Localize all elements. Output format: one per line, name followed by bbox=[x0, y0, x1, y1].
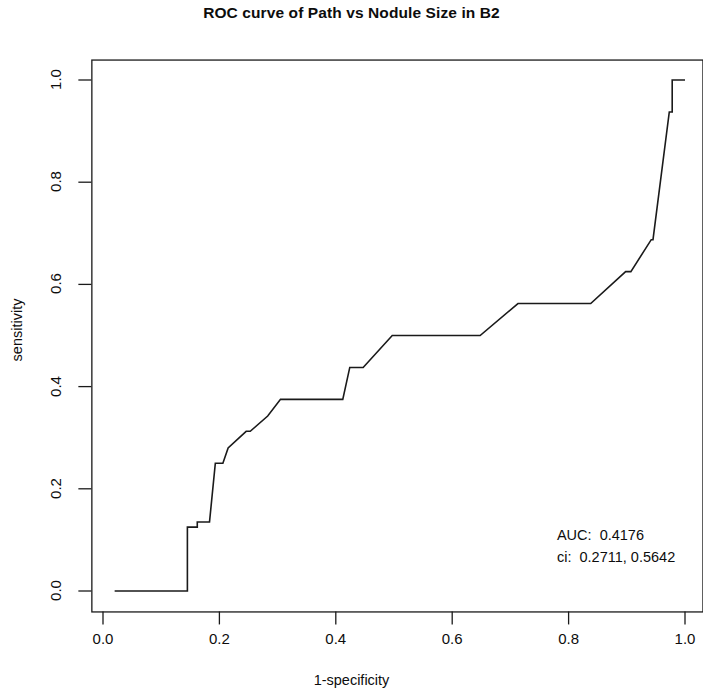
plot-canvas bbox=[0, 0, 703, 700]
roc-chart: ROC curve of Path vs Nodule Size in B2 0… bbox=[0, 0, 703, 700]
x-tick-label: 1.0 bbox=[655, 630, 703, 647]
x-tick-label: 0.4 bbox=[306, 630, 366, 647]
roc-curve-line bbox=[115, 80, 685, 591]
y-tick-label: 0.8 bbox=[47, 159, 64, 205]
y-tick-label: 0.2 bbox=[47, 465, 64, 511]
x-axis-tick-marks bbox=[103, 611, 685, 624]
chart-title: ROC curve of Path vs Nodule Size in B2 bbox=[0, 4, 703, 22]
x-tick-label: 0.6 bbox=[422, 630, 482, 647]
y-tick-label: 0.0 bbox=[47, 568, 64, 614]
roc-curve-group bbox=[115, 80, 685, 591]
y-axis-tick-marks bbox=[78, 80, 91, 591]
y-tick-label: 1.0 bbox=[47, 57, 64, 103]
auc-annotation: AUC: 0.4176 bbox=[557, 527, 644, 543]
ci-annotation: ci: 0.2711, 0.5642 bbox=[557, 549, 675, 565]
x-axis-label: 1-specificity bbox=[0, 672, 703, 688]
x-tick-label: 0.0 bbox=[73, 630, 133, 647]
x-tick-label: 0.8 bbox=[539, 630, 599, 647]
x-tick-label: 0.2 bbox=[189, 630, 249, 647]
y-axis-label: sensitivity bbox=[9, 280, 25, 380]
y-tick-label: 0.4 bbox=[47, 363, 64, 409]
y-tick-label: 0.6 bbox=[47, 261, 64, 307]
